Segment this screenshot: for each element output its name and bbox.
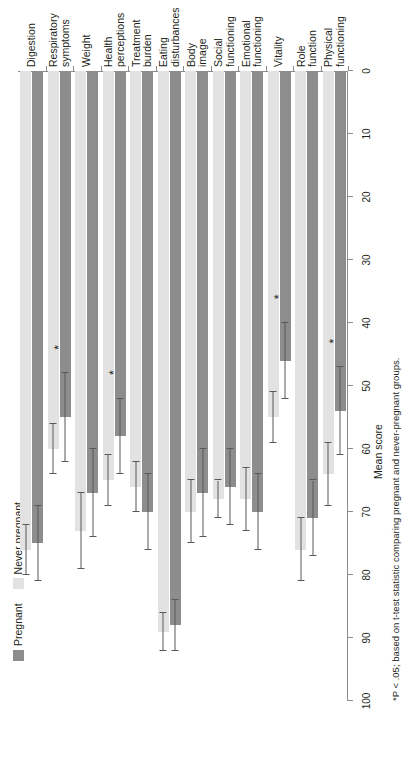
bar-never-pregnant xyxy=(158,71,169,632)
error-bar-cap xyxy=(89,448,96,449)
error-bar xyxy=(230,449,231,525)
bar-group xyxy=(323,71,334,701)
error-bar-cap xyxy=(337,366,344,367)
error-bar-cap xyxy=(282,322,289,323)
rotated-figure-canvas: PregnantNever pregnant 01020304050607080… xyxy=(0,0,409,779)
bar-never-pregnant xyxy=(48,71,59,449)
bar-group xyxy=(158,71,169,701)
bar-group xyxy=(335,71,346,701)
bar-never-pregnant xyxy=(323,71,334,474)
bar-pregnant xyxy=(87,71,98,493)
error-bar-cap xyxy=(297,580,304,581)
error-bar-cap xyxy=(227,448,234,449)
category-label: Emotionalfunctioning xyxy=(240,5,263,67)
bar-group xyxy=(130,71,141,701)
bar-pregnant xyxy=(225,71,236,487)
category-label: Treatmentburden xyxy=(130,5,153,67)
error-bar-cap xyxy=(187,543,194,544)
bar-group xyxy=(87,71,98,701)
category-axis-labels: PhysicalfunctioningRolefunctionVitalityE… xyxy=(18,5,348,67)
value-axis-tick xyxy=(348,322,353,323)
value-axis-tick-label: 20 xyxy=(361,191,372,202)
error-bar-cap xyxy=(132,511,139,512)
error-bar-cap xyxy=(160,650,167,651)
bar-pregnant xyxy=(335,71,346,411)
error-bar xyxy=(65,373,66,461)
error-bar-cap xyxy=(34,580,41,581)
bar-group xyxy=(295,71,306,701)
category-label-line: Health xyxy=(103,5,115,67)
error-bar xyxy=(175,600,176,650)
error-bar-cap xyxy=(172,599,179,600)
bar-group xyxy=(20,71,31,701)
value-axis-tick-label: 30 xyxy=(361,254,372,265)
bar-group xyxy=(213,71,224,701)
error-bar xyxy=(273,392,274,442)
bar-group xyxy=(103,71,114,701)
error-bar-cap xyxy=(160,612,167,613)
error-bar xyxy=(257,474,258,550)
bar-group xyxy=(225,71,236,701)
error-bar-cap xyxy=(254,473,261,474)
value-axis-tick-label: 70 xyxy=(361,506,372,517)
category-label: Physicalfunctioning xyxy=(323,5,346,67)
category-label-line: Vitality xyxy=(274,5,286,67)
value-axis-tick-label: 0 xyxy=(361,68,372,74)
bar-pregnant xyxy=(170,71,181,625)
error-bar xyxy=(340,367,341,455)
bar-chart-figure: PregnantNever pregnant 01020304050607080… xyxy=(0,0,409,779)
error-bar-cap xyxy=(77,492,84,493)
error-bar-cap xyxy=(117,473,124,474)
category-label-line: Treatment xyxy=(130,5,142,67)
category-label: Weight xyxy=(81,5,93,67)
bar-pregnant xyxy=(60,71,71,418)
bar-pregnant xyxy=(197,71,208,493)
value-axis-tick-label: 60 xyxy=(361,443,372,454)
error-bar xyxy=(190,481,191,544)
error-bar-cap xyxy=(187,480,194,481)
error-bar xyxy=(135,462,136,512)
error-bar-cap xyxy=(254,549,261,550)
error-bar-cap xyxy=(337,454,344,455)
bar-never-pregnant xyxy=(185,71,196,512)
category-label-line: symptoms xyxy=(59,5,71,67)
error-bar-cap xyxy=(77,568,84,569)
error-bar-cap xyxy=(270,391,277,392)
error-bar-cap xyxy=(282,398,289,399)
error-bar-cap xyxy=(62,372,69,373)
category-label-line: Physical xyxy=(323,5,335,67)
category-label-line: functioning xyxy=(224,5,236,67)
value-axis-tick-label: 100 xyxy=(361,693,372,710)
error-bar-cap xyxy=(22,574,29,575)
error-bar-cap xyxy=(199,448,206,449)
bar-pregnant xyxy=(280,71,291,361)
bar-pregnant xyxy=(115,71,126,436)
error-bar xyxy=(163,613,164,651)
bar-group xyxy=(32,71,43,701)
error-bar-cap xyxy=(89,536,96,537)
category-axis-tick xyxy=(348,66,349,71)
error-bar-cap xyxy=(215,517,222,518)
bar-group xyxy=(48,71,59,701)
value-axis-tick xyxy=(348,385,353,386)
bar-never-pregnant xyxy=(130,71,141,487)
bar-never-pregnant xyxy=(268,71,279,418)
bar-group xyxy=(307,71,318,701)
error-bar xyxy=(80,493,81,569)
error-bar-cap xyxy=(270,442,277,443)
error-bar-cap xyxy=(22,524,29,525)
error-bar-cap xyxy=(50,473,57,474)
error-bar-cap xyxy=(34,505,41,506)
error-bar-cap xyxy=(297,517,304,518)
category-label: Respiratorysymptoms xyxy=(48,5,71,67)
value-axis-tick xyxy=(348,511,353,512)
error-bar xyxy=(245,468,246,531)
figure-footnote: *P < .05; based on t-test statistic comp… xyxy=(390,358,401,701)
value-axis-tick-label: 40 xyxy=(361,317,372,328)
error-bar-cap xyxy=(242,467,249,468)
category-label-line: image xyxy=(197,5,209,67)
error-bar-cap xyxy=(144,549,151,550)
error-bar xyxy=(300,518,301,581)
category-label-line: function xyxy=(307,5,319,67)
bar-never-pregnant xyxy=(75,71,86,531)
